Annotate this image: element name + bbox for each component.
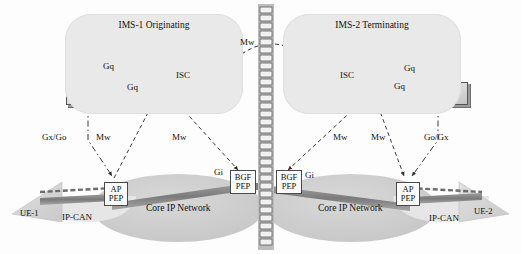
ip-can-right-label: IP-CAN xyxy=(429,213,459,223)
label-isc-ims1: ISC xyxy=(176,70,190,80)
label-gq-ims1-as: Gq xyxy=(103,61,114,71)
network-architecture-diagram: IMS-1 Originating IMS-2 Terminating AS C… xyxy=(0,0,521,254)
ap-pep-right-line2: PEP xyxy=(401,194,416,203)
ap-pep-left-line2: PEP xyxy=(109,194,124,203)
core-ip-network-right-label: Core IP Network xyxy=(318,203,383,213)
node-ap-pep-left[interactable]: AP PEP xyxy=(104,182,128,206)
core-ip-network-left-label: Core IP Network xyxy=(146,203,211,213)
label-mw-left-2: Mw xyxy=(172,132,187,142)
label-mw-right-2: Mw xyxy=(371,132,386,142)
ue-1-label: UE-1 xyxy=(20,208,38,218)
node-bgf-pep-right[interactable]: BGF PEP xyxy=(276,170,302,194)
label-gq-ims2-cscf: Gq xyxy=(394,81,405,91)
label-gq-ims2-as: Gq xyxy=(404,63,415,73)
bgf-pep-left-line2: PEP xyxy=(236,182,251,191)
label-gi-right: Gi xyxy=(305,170,314,180)
label-mw-left-1: Mw xyxy=(96,132,111,142)
label-gq-ims1-cscf: Gq xyxy=(127,82,138,92)
ims-1-title: IMS-1 Originating xyxy=(99,20,209,30)
link-mw-left-ap xyxy=(114,105,152,178)
link-mw-left-bgf xyxy=(180,106,238,170)
node-ap-pep-right[interactable]: AP PEP xyxy=(396,182,420,206)
label-gxgo-left: Gx/Go xyxy=(42,132,67,142)
label-gogx-right: Go/Gx xyxy=(424,132,449,142)
node-bgf-pep-left[interactable]: BGF PEP xyxy=(230,170,256,194)
ue-2-shape xyxy=(459,182,509,222)
firewall-brick-column xyxy=(258,4,274,250)
label-mw-inter-domain: Mw xyxy=(240,37,255,47)
ue-2-label: UE-2 xyxy=(474,206,492,216)
bgf-pep-right-line2: PEP xyxy=(282,182,297,191)
ims-2-title: IMS-2 Terminating xyxy=(317,20,427,30)
label-gi-left: Gi xyxy=(214,167,223,177)
label-mw-right-1: Mw xyxy=(333,132,348,142)
label-isc-ims2: ISC xyxy=(340,70,354,80)
ip-can-left-label: IP-CAN xyxy=(62,212,92,222)
